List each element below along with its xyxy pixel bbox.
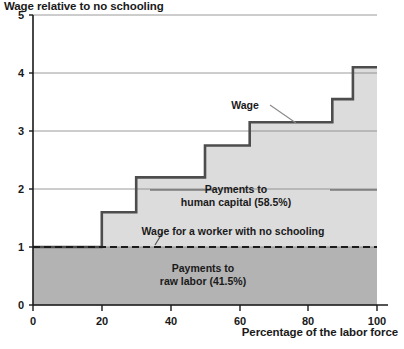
annotation-human-capital-line2: human capital (58.5%) <box>181 196 291 209</box>
y-tick-label-2: 2 <box>18 183 24 195</box>
x-axis-title: Percentage of the labor force <box>242 326 398 338</box>
annotation-raw-labor: Payments to raw labor (41.5%) <box>160 262 246 288</box>
y-tick-label-0: 0 <box>18 299 24 311</box>
annotation-wage: Wage <box>231 99 259 112</box>
annotation-human-capital-line1: Payments to <box>181 183 291 196</box>
chart-plot-area: 0 1 2 3 4 5 0 20 40 60 80 100 <box>0 0 404 349</box>
x-tick-marks <box>33 305 377 311</box>
y-tick-label-1: 1 <box>18 241 24 253</box>
annotation-human-capital: Payments to human capital (58.5%) <box>181 183 291 209</box>
annotation-no-schooling: Wage for a worker with no schooling <box>142 225 325 238</box>
annotation-raw-labor-line2: raw labor (41.5%) <box>160 275 246 288</box>
wage-leader-line <box>270 105 296 123</box>
x-tick-label-0: 0 <box>30 315 36 327</box>
x-tick-label-20: 20 <box>96 315 108 327</box>
chart-figure: Wage relative to no schooling <box>0 0 404 349</box>
y-tick-label-3: 3 <box>18 125 24 137</box>
y-tick-label-4: 4 <box>18 67 25 79</box>
y-tick-label-5: 5 <box>18 9 24 21</box>
x-tick-label-40: 40 <box>165 315 177 327</box>
annotation-raw-labor-line1: Payments to <box>160 262 246 275</box>
